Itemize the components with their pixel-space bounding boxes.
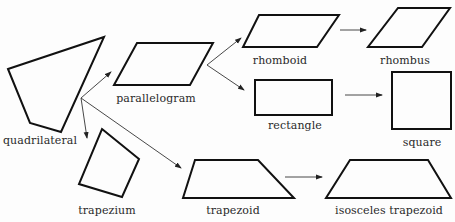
label-rhombus: rhombus (380, 55, 430, 66)
rhomboid-shape (243, 15, 339, 47)
arrow-quadrilateral-to-trapezium (81, 98, 87, 138)
label-parallelogram: parallelogram (116, 93, 196, 104)
arrow-parallelogram-to-rectangle (207, 65, 244, 90)
rhombus-shape (368, 8, 450, 47)
label-isosceles-trapezoid: isosceles trapezoid (335, 205, 443, 216)
label-trapezoid: trapezoid (206, 205, 260, 216)
square-shape (392, 72, 451, 129)
rectangle-shape (255, 80, 332, 115)
isosceles-trapezoid-shape (326, 160, 451, 198)
label-rhomboid: rhomboid (253, 55, 307, 66)
label-rectangle: rectangle (268, 120, 322, 131)
quadrilateral-shape (8, 37, 104, 132)
quadrilateral-classification-diagram: quadrilateral parallelogram trapezium tr… (0, 0, 455, 222)
trapezium-shape (79, 129, 139, 197)
diagram-graphics (0, 0, 455, 222)
label-trapezium: trapezium (78, 205, 136, 216)
label-square: square (403, 137, 442, 148)
label-quadrilateral: quadrilateral (3, 135, 77, 146)
trapezoid-shape (183, 160, 294, 198)
parallelogram-shape (114, 43, 213, 85)
arrow-quadrilateral-to-trapezoid (81, 98, 181, 168)
